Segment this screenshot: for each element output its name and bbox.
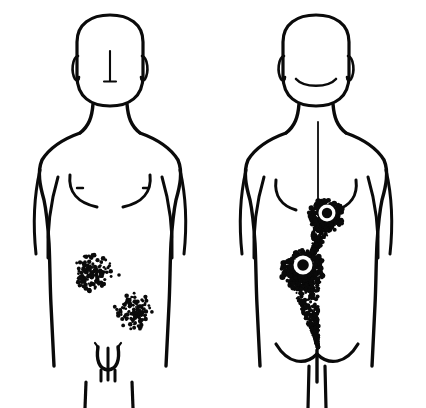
stipple-dot xyxy=(86,263,90,267)
lesion-tail-dot xyxy=(303,280,306,283)
lesion-tail-dot xyxy=(316,329,318,331)
stipple-dot xyxy=(147,304,150,307)
lesion-tail-dot xyxy=(321,240,325,244)
lesion-tail-dot xyxy=(323,226,326,229)
lesion-tail-dot xyxy=(322,228,325,231)
stipple-dot xyxy=(139,304,143,308)
stipple-dot xyxy=(78,260,82,264)
lesion-tail-dot xyxy=(308,273,312,277)
lesion-tail-dot xyxy=(303,311,306,314)
stipple-dot xyxy=(121,324,125,328)
stipple-dot xyxy=(92,274,95,277)
lesion-head-dot xyxy=(298,249,301,252)
lesion-tail-dot xyxy=(319,227,321,229)
stipple-dot xyxy=(145,314,147,316)
stipple-dot xyxy=(145,310,147,312)
lesion-tail-dot xyxy=(320,231,323,234)
lesion-head-dot xyxy=(312,266,315,269)
lesion-tail-dot xyxy=(317,286,320,289)
lesion-tail-dot xyxy=(310,327,314,331)
lesion-tail-dot xyxy=(317,228,320,231)
lesion-halo-core xyxy=(322,208,332,218)
lesion-tail-dot xyxy=(329,229,332,232)
stipple-dot xyxy=(129,327,132,330)
stipple-dot xyxy=(138,316,141,319)
lesion-tail-dot xyxy=(302,306,304,308)
stipple-dot xyxy=(77,269,80,272)
lesion-tail-dot xyxy=(309,301,312,304)
lesion-tail-dot xyxy=(322,234,326,238)
lesion-head-dot xyxy=(290,271,293,274)
stipple-dot xyxy=(140,298,143,301)
stipple-dot xyxy=(77,276,81,280)
stipple-dot xyxy=(133,318,136,321)
stipple-dot xyxy=(133,314,135,316)
anterior-leg-gap-left xyxy=(85,382,86,408)
canvas-background xyxy=(0,0,426,408)
lesion-tail-dot xyxy=(313,313,317,317)
lesion-tail-dot xyxy=(304,305,308,309)
lesion-tail-dot xyxy=(312,242,314,244)
lesion-head-dot xyxy=(287,261,290,264)
lesion-tail-dot xyxy=(300,296,302,298)
lesion-tail-dot xyxy=(312,294,315,297)
stipple-dot xyxy=(132,326,136,330)
stipple-dot xyxy=(134,311,138,315)
lesion-head-dot xyxy=(315,259,320,264)
lesion-head-dot xyxy=(294,276,298,280)
stipple-dot xyxy=(87,260,91,264)
stipple-dot xyxy=(95,258,99,262)
lesion-head-dot xyxy=(313,204,316,207)
lesion-head-dot xyxy=(318,270,321,273)
stipple-dot xyxy=(128,299,132,303)
lesion-head-dot xyxy=(290,257,294,261)
lesion-tail-dot xyxy=(305,287,307,289)
lesion-head-dot xyxy=(280,267,284,271)
stipple-dot xyxy=(143,318,145,320)
stipple-dot xyxy=(95,280,98,283)
stipple-dot xyxy=(82,262,84,264)
lesion-tail-dot xyxy=(326,234,328,236)
stipple-dot xyxy=(125,312,128,315)
lesion-tail-dot xyxy=(295,281,298,284)
stipple-dot xyxy=(80,277,84,281)
lesion-tail-dot xyxy=(301,292,305,296)
lesion-tail-dot xyxy=(298,298,301,301)
stipple-dot xyxy=(135,302,138,305)
lesion-head-dot xyxy=(286,279,290,283)
lesion-tail-dot xyxy=(299,287,303,291)
stipple-dot xyxy=(133,292,136,295)
stipple-dot xyxy=(119,310,123,314)
lesion-head-dot xyxy=(281,271,286,276)
lesion-tail-dot xyxy=(298,301,303,306)
stipple-dot xyxy=(143,295,147,299)
lesion-tail-dot xyxy=(294,288,296,290)
lesion-tail-dot xyxy=(319,243,321,245)
lesion-tail-dot xyxy=(321,222,324,225)
lesion-tail-dot xyxy=(313,226,316,229)
lesion-head-dot xyxy=(318,266,322,270)
stipple-dot xyxy=(96,270,99,273)
stipple-dot xyxy=(98,269,102,273)
stipple-dot xyxy=(133,323,135,325)
body-diagram-illustration xyxy=(0,0,426,408)
posterior-leg-gap-right xyxy=(325,366,326,408)
lesion-tail-dot xyxy=(312,304,316,308)
lesion-head-dot xyxy=(315,210,318,213)
lesion-tail-dot xyxy=(314,251,317,254)
stipple-dot xyxy=(132,320,134,322)
stipple-dot xyxy=(150,310,154,314)
stipple-dot xyxy=(102,282,107,287)
lesion-tail-dot xyxy=(311,230,315,234)
lesion-tail-dot xyxy=(313,247,316,250)
lesion-tail-dot xyxy=(309,315,312,318)
lesion-tail-dot xyxy=(314,272,318,276)
lesion-head-dot xyxy=(319,264,321,266)
stipple-dot xyxy=(103,278,106,281)
stipple-dot xyxy=(92,253,97,258)
stipple-dot xyxy=(125,308,128,311)
lesion-halo-core xyxy=(297,259,309,271)
lesion-tail-dot xyxy=(310,284,315,289)
stipple-dot xyxy=(90,266,93,269)
lesion-head-dot xyxy=(318,275,321,278)
